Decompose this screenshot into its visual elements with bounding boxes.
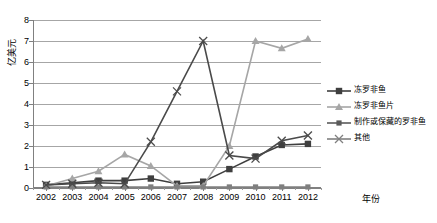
x-axis-tick-mark — [177, 188, 178, 191]
legend-item[interactable]: 其他 — [326, 130, 437, 143]
legend-key-square-small-icon — [326, 115, 352, 127]
x-axis-tick-label: 2004 — [88, 192, 108, 202]
x-axis-tick-label: 2003 — [62, 192, 82, 202]
data-point-marker — [304, 35, 312, 42]
legend-key-x-icon — [326, 131, 352, 143]
x-axis-minor-mark — [85, 188, 86, 190]
x-axis-tick-label: 2009 — [219, 192, 239, 202]
series-line — [46, 39, 308, 186]
legend-label: 冻罗非鱼 — [354, 83, 386, 94]
data-point-marker — [94, 167, 102, 174]
legend-item[interactable]: 冻罗非鱼 — [326, 82, 437, 95]
data-point-marker — [305, 141, 311, 147]
legend-label: 制作或保藏的罗非鱼 — [354, 115, 426, 126]
x-axis-tick-label: 2011 — [272, 192, 291, 202]
x-axis-tick-label: 2008 — [193, 192, 213, 202]
x-axis-minor-mark — [164, 188, 165, 190]
x-axis-tick-label: 2002 — [36, 192, 56, 202]
x-axis-tick-label: 2010 — [246, 192, 266, 202]
data-point-marker — [226, 166, 232, 172]
x-axis-tick-mark — [256, 188, 257, 191]
x-axis-tick-label: 2007 — [167, 192, 187, 202]
x-axis-tick-mark — [308, 188, 309, 191]
data-point-marker — [121, 150, 129, 157]
data-point-marker — [173, 87, 181, 95]
x-axis-tick-label: 2006 — [141, 192, 161, 202]
chart-legend: 冻罗非鱼冻罗非鱼片制作或保藏的罗非鱼其他 — [326, 82, 437, 146]
x-axis-tick-label: 2012 — [298, 192, 318, 202]
series-group — [33, 20, 321, 188]
legend-label: 其他 — [354, 131, 370, 142]
x-axis-minor-mark — [295, 188, 296, 190]
x-axis-tick-mark — [203, 188, 204, 191]
data-point-marker — [252, 37, 260, 44]
x-axis-minor-mark — [138, 188, 139, 190]
legend-item[interactable]: 冻罗非鱼片 — [326, 98, 437, 111]
x-axis-minor-mark — [59, 188, 60, 190]
data-point-marker — [147, 138, 155, 146]
x-axis-tick-mark — [46, 188, 47, 191]
x-axis-minor-mark — [33, 188, 34, 190]
x-axis-title: 年份 — [362, 192, 380, 205]
series-line — [46, 41, 308, 185]
data-point-marker — [336, 120, 341, 125]
x-axis-minor-mark — [242, 188, 243, 190]
x-axis-tick-mark — [125, 188, 126, 191]
x-axis-tick-mark — [151, 188, 152, 191]
series-triangle — [42, 35, 312, 189]
data-point-marker — [336, 87, 342, 93]
x-axis-tick-label: 2005 — [115, 192, 135, 202]
series-x — [42, 37, 312, 189]
legend-label: 冻罗非鱼片 — [354, 99, 394, 110]
x-axis-tick-mark — [229, 188, 230, 191]
x-axis-tick-mark — [72, 188, 73, 191]
x-axis-minor-mark — [112, 188, 113, 190]
x-axis-minor-mark — [216, 188, 217, 190]
data-point-marker — [148, 175, 154, 181]
plot-area — [33, 20, 321, 188]
legend-item[interactable]: 制作或保藏的罗非鱼 — [326, 114, 437, 127]
x-axis-tick-mark — [98, 188, 99, 191]
legend-key-square-icon — [326, 83, 352, 95]
y-axis-tick-group: 012345678 — [0, 20, 33, 188]
x-axis-tick-mark — [282, 188, 283, 191]
x-axis-minor-mark — [269, 188, 270, 190]
x-axis-minor-mark — [321, 188, 322, 190]
chart-container: 亿美元 012345678 20022003200420052006200720… — [0, 0, 437, 223]
x-axis-minor-mark — [190, 188, 191, 190]
legend-key-triangle-icon — [326, 99, 352, 111]
